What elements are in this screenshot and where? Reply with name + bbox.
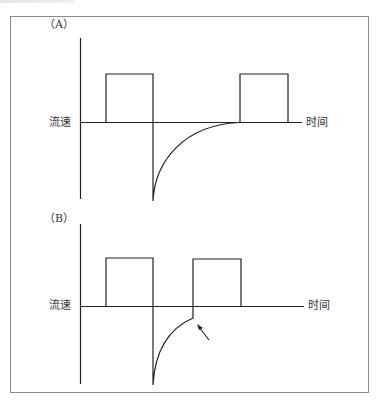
panel-a-y-axis-label: 流速 [49, 117, 71, 128]
panel-a-pulse-1 [106, 74, 153, 123]
flow-diagram [0, 0, 378, 401]
panel-a-negative-decay [153, 123, 239, 202]
panel-b-label: （B） [44, 213, 74, 224]
panel-b-pulse-1 [106, 258, 153, 307]
arrow-head-icon [197, 324, 203, 330]
panel-a-pulse-2 [240, 74, 288, 123]
panel-b [80, 224, 304, 385]
panel-b-x-axis-label: 时间 [308, 300, 330, 311]
panel-a-label: （A） [44, 19, 74, 30]
panel-b-interrupted-decay-and-pulse-2 [153, 259, 241, 385]
panel-b-y-axis-label: 流速 [49, 300, 71, 311]
panel-a [80, 38, 302, 201]
panel-a-x-axis-label: 时间 [306, 117, 328, 128]
figure-frame [11, 17, 369, 393]
